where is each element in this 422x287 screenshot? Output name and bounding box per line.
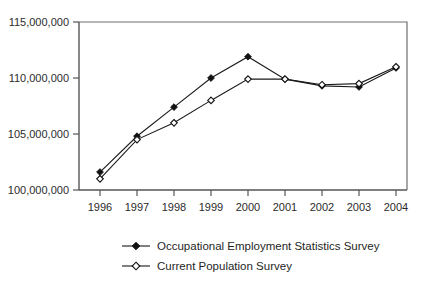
x-tick-label: 1996 <box>88 201 112 213</box>
x-tick-label: 1998 <box>162 201 186 213</box>
open-diamond-icon <box>282 76 289 83</box>
open-diamond-icon <box>171 120 178 127</box>
y-tick-label: 105,000,000 <box>8 128 69 140</box>
plot-frame <box>79 22 407 190</box>
y-tick-label: 115,000,000 <box>9 16 69 28</box>
x-axis-ticks <box>100 190 396 196</box>
legend-label-oes: Occupational Employment Statistics Surve… <box>157 240 380 252</box>
open-diamond-icon <box>208 97 215 104</box>
open-diamond-icon <box>132 262 140 270</box>
y-axis-labels: 115,000,000 110,000,000 105,000,000 100,… <box>8 16 69 196</box>
legend-item-oes: Occupational Employment Statistics Surve… <box>122 240 380 252</box>
x-tick-label: 2004 <box>384 201 408 213</box>
series-layer <box>97 53 400 182</box>
x-tick-label: 2000 <box>236 201 260 213</box>
x-tick-label: 2001 <box>273 201 297 213</box>
x-tick-label: 2003 <box>347 201 371 213</box>
x-tick-label: 1999 <box>199 201 223 213</box>
open-diamond-icon <box>245 76 252 83</box>
series-line <box>100 67 396 179</box>
filled-diamond-icon <box>245 53 252 60</box>
x-tick-label: 2002 <box>310 201 334 213</box>
y-axis-ticks <box>73 22 79 190</box>
x-axis-labels: 1996 1997 1998 1999 2000 2001 2002 2003 … <box>88 201 408 213</box>
legend-item-cps: Current Population Survey <box>122 260 292 272</box>
chart-figure: 115,000,000 110,000,000 105,000,000 100,… <box>0 0 422 287</box>
filled-diamond-icon <box>132 242 140 250</box>
y-tick-label: 110,000,000 <box>9 72 69 84</box>
y-tick-label: 100,000,000 <box>8 184 69 196</box>
chart-legend: Occupational Employment Statistics Surve… <box>122 240 380 272</box>
line-chart: 115,000,000 110,000,000 105,000,000 100,… <box>0 0 422 287</box>
x-tick-label: 1997 <box>125 201 149 213</box>
series-line <box>100 57 396 172</box>
legend-label-cps: Current Population Survey <box>157 260 292 272</box>
